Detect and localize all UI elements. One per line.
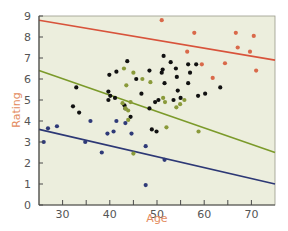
y-tick-label: 9	[24, 10, 31, 23]
data-point-black	[186, 81, 190, 85]
data-point-green	[120, 101, 124, 105]
data-point-blue	[105, 132, 109, 136]
y-tick-label: 6	[24, 73, 31, 86]
data-point-green	[161, 96, 165, 100]
data-point-orange	[252, 34, 256, 38]
data-point-blue	[162, 158, 166, 162]
y-tick-label: 4	[24, 115, 31, 128]
y-tick-label: 3	[24, 136, 31, 149]
data-point-orange	[236, 45, 240, 49]
data-point-orange	[192, 31, 196, 35]
data-point-blue	[129, 132, 133, 136]
data-point-black	[188, 71, 192, 75]
data-point-black	[134, 77, 138, 81]
y-tick-label: 2	[24, 157, 31, 170]
data-point-black	[203, 92, 207, 96]
data-point-blue	[144, 144, 148, 148]
data-point-black	[194, 62, 198, 66]
data-point-green	[182, 98, 186, 102]
data-point-black	[160, 71, 164, 75]
data-point-green	[126, 118, 130, 122]
x-tick-label: 40	[103, 208, 117, 221]
x-tick-label: 60	[197, 208, 211, 221]
data-point-green	[122, 66, 126, 70]
data-point-black	[175, 75, 179, 79]
data-point-blue	[144, 183, 148, 187]
data-point-green	[148, 80, 152, 84]
data-point-blue	[100, 150, 104, 154]
data-point-blue	[114, 119, 118, 123]
y-tick-label: 8	[24, 31, 31, 44]
scatter-chart: 01234567893040506070 Age Rating	[0, 0, 288, 231]
data-point-black	[179, 96, 183, 100]
data-point-orange	[185, 50, 189, 54]
data-point-black	[171, 98, 175, 102]
data-point-black	[106, 90, 110, 94]
data-point-black	[107, 73, 111, 77]
data-point-black	[77, 111, 81, 115]
data-point-blue	[88, 119, 92, 123]
data-point-black	[114, 70, 118, 74]
data-point-black	[139, 92, 143, 96]
data-point-orange	[234, 31, 238, 35]
data-point-black	[74, 85, 78, 89]
data-point-green	[174, 105, 178, 109]
data-point-black	[113, 96, 117, 100]
data-point-black	[71, 104, 75, 108]
data-point-black	[169, 60, 173, 64]
y-tick-label: 0	[24, 199, 31, 212]
data-point-green	[196, 129, 200, 133]
data-point-black	[147, 69, 151, 73]
y-axis-label: Rating	[10, 92, 23, 127]
data-point-black	[162, 54, 166, 58]
data-point-green	[178, 102, 182, 106]
data-point-black	[176, 88, 180, 92]
data-point-green	[128, 100, 132, 104]
data-point-black	[218, 85, 222, 89]
data-point-blue	[111, 129, 115, 133]
data-point-black	[174, 66, 178, 70]
data-point-black	[154, 129, 158, 133]
data-point-blue	[123, 121, 127, 125]
data-point-green	[126, 108, 130, 112]
data-point-black	[186, 62, 190, 66]
data-point-orange	[223, 61, 227, 65]
data-point-black	[106, 98, 110, 102]
y-tick-label: 7	[24, 52, 31, 65]
data-point-green	[163, 100, 167, 104]
data-point-green	[140, 77, 144, 81]
data-point-green	[164, 125, 168, 129]
chart-svg: 01234567893040506070 Age Rating	[0, 0, 288, 231]
data-point-orange	[200, 62, 204, 66]
data-point-orange	[160, 18, 164, 22]
plot-area	[39, 16, 275, 205]
data-point-green	[131, 151, 135, 155]
data-point-orange	[248, 50, 252, 54]
data-point-black	[108, 94, 112, 98]
data-point-orange	[254, 69, 258, 73]
data-point-black	[150, 127, 154, 131]
y-tick-label: 1	[24, 178, 31, 191]
x-tick-label: 70	[244, 208, 258, 221]
data-point-orange	[211, 76, 215, 80]
data-point-black	[196, 94, 200, 98]
data-point-green	[131, 71, 135, 75]
data-point-black	[125, 59, 129, 63]
data-point-blue	[83, 140, 87, 144]
data-point-green	[124, 83, 128, 87]
data-point-blue	[46, 126, 50, 130]
data-point-black	[147, 106, 151, 110]
y-tick-label: 5	[24, 94, 31, 107]
data-point-black	[156, 98, 160, 102]
data-point-blue	[55, 124, 59, 128]
x-tick-label: 30	[56, 208, 70, 221]
x-axis-label: Age	[146, 212, 168, 225]
data-point-black	[162, 81, 166, 85]
